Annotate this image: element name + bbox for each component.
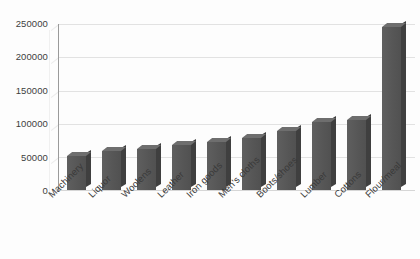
bar-side xyxy=(156,143,161,187)
bar-chart: 250000 200000 150000 100000 50000 0 xyxy=(0,0,420,259)
bar-side xyxy=(296,125,301,187)
y-tick-100000: 100000 xyxy=(0,119,48,129)
bar-side xyxy=(261,132,266,187)
y-tick-50000: 50000 xyxy=(0,153,48,163)
bar-side xyxy=(331,116,336,187)
bar-side xyxy=(366,114,371,187)
y-axis-back-line xyxy=(49,30,50,197)
y-tick-150000: 150000 xyxy=(0,86,48,96)
y-axis-tick-labels: 250000 200000 150000 100000 50000 0 xyxy=(0,0,48,259)
bar-side xyxy=(86,150,91,187)
y-tick-250000: 250000 xyxy=(0,19,48,29)
bar-side xyxy=(401,21,406,187)
bar-side xyxy=(121,145,126,187)
y-tick-0: 0 xyxy=(0,186,48,196)
x-axis-category-labels: Machinery Liquor Woolens Leather Iron go… xyxy=(58,192,420,259)
y-tick-200000: 200000 xyxy=(0,52,48,62)
